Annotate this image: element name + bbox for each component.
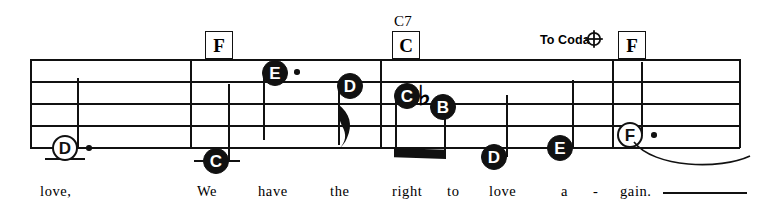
note-letter: C bbox=[210, 153, 222, 170]
note-letter: D bbox=[344, 78, 356, 95]
note-stem bbox=[572, 80, 574, 148]
notehead-e-2[interactable]: E bbox=[547, 135, 573, 161]
chord-symbol-f-1[interactable]: F bbox=[205, 31, 233, 59]
notehead-d-1[interactable]: D bbox=[52, 135, 78, 161]
note-letter: C bbox=[401, 88, 413, 105]
barline-end bbox=[739, 59, 741, 148]
eighth-flag-icon bbox=[336, 104, 358, 154]
chord-superscript-c7: C7 bbox=[394, 13, 412, 30]
chord-symbol-f-2[interactable]: F bbox=[618, 31, 646, 59]
lyric-extension-line bbox=[663, 192, 747, 194]
barline-start bbox=[30, 59, 32, 148]
notehead-c-2[interactable]: C bbox=[394, 83, 420, 109]
note-letter: D bbox=[488, 149, 500, 166]
lyric-word: a bbox=[561, 183, 568, 200]
staff-line-1 bbox=[30, 59, 740, 61]
augmentation-dot bbox=[294, 69, 300, 75]
chord-label: F bbox=[626, 36, 638, 55]
lyric-word: the bbox=[330, 183, 350, 200]
note-stem bbox=[506, 95, 508, 157]
note-letter: E bbox=[269, 65, 280, 82]
note-letter: D bbox=[59, 140, 71, 157]
barline-2 bbox=[380, 59, 382, 148]
lyric-word: We bbox=[197, 183, 217, 200]
notehead-d-3[interactable]: D bbox=[481, 144, 507, 170]
lyric-word: love bbox=[489, 183, 516, 200]
lyric-word: gain. bbox=[620, 183, 652, 200]
augmentation-dot bbox=[651, 132, 657, 138]
staff-line-2 bbox=[30, 81, 740, 83]
note-letter: E bbox=[554, 140, 565, 157]
lyric-word: love, bbox=[40, 183, 72, 200]
note-stem bbox=[641, 62, 643, 134]
staff-line-3 bbox=[30, 103, 740, 105]
notehead-b-flat[interactable]: B bbox=[430, 94, 456, 120]
tie-slur bbox=[632, 140, 752, 176]
note-letter: B bbox=[437, 99, 449, 116]
lyric-word: have bbox=[258, 183, 288, 200]
beam bbox=[394, 148, 446, 159]
lyric-word: to bbox=[447, 183, 459, 200]
lyric-word: right bbox=[392, 183, 422, 200]
notehead-d-2[interactable]: D bbox=[337, 73, 363, 99]
notehead-e-1[interactable]: E bbox=[262, 60, 288, 86]
to-coda-label: To Coda bbox=[540, 33, 590, 47]
barline-1 bbox=[190, 59, 192, 148]
note-stem bbox=[77, 78, 79, 148]
note-stem bbox=[228, 84, 230, 160]
chord-label: F bbox=[213, 36, 225, 55]
barline-3 bbox=[612, 59, 614, 148]
note-stem bbox=[263, 72, 265, 140]
chord-label: C bbox=[399, 36, 413, 55]
sheet-music-system: F C7 C F To Coda D C E D bbox=[0, 0, 776, 213]
notehead-c-1[interactable]: C bbox=[203, 148, 229, 174]
lyric-hyphen: - bbox=[593, 183, 598, 200]
augmentation-dot bbox=[86, 145, 92, 151]
chord-symbol-c[interactable]: C bbox=[392, 31, 420, 59]
coda-symbol bbox=[584, 29, 604, 53]
